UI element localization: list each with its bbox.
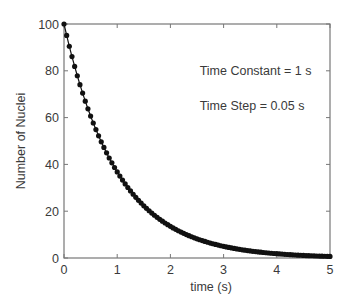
data-point [109,160,114,165]
decay-chart: 012345020406080100 Time Constant = 1 s T… [0,0,349,308]
data-point [72,64,77,69]
x-tick-label: 2 [167,263,174,277]
data-point [96,133,101,138]
y-tick-label: 60 [45,111,59,125]
data-point [104,150,109,155]
x-axis-label: time (s) [190,280,232,294]
y-tick-label: 20 [45,205,59,219]
x-tick-label: 4 [273,263,280,277]
data-point [327,254,332,259]
y-tick-label: 100 [38,18,59,32]
data-point [75,73,80,78]
data-point [85,106,90,111]
data-point [69,54,74,59]
axis-ticks [64,24,330,258]
data-point [61,21,66,26]
data-point [93,127,98,132]
data-point [64,33,69,38]
data-point [99,139,104,144]
x-tick-label: 3 [220,263,227,277]
data-series [61,21,332,259]
x-tick-label: 1 [114,263,121,277]
data-point [91,120,96,125]
y-tick-label: 0 [52,252,59,266]
data-point [88,113,93,118]
y-tick-label: 40 [45,158,59,172]
data-point [101,145,106,150]
data-point [112,165,117,170]
data-point [83,99,88,104]
annotation-time-step: Time Step = 0.05 s [200,99,305,113]
data-point [77,82,82,87]
data-point [107,155,112,160]
y-tick-label: 80 [45,64,59,78]
x-tick-label: 0 [61,263,68,277]
tick-labels: 012345020406080100 [38,18,333,278]
annotation-time-constant: Time Constant = 1 s [200,64,312,78]
data-point [80,91,85,96]
data-point [67,44,72,49]
x-tick-label: 5 [327,263,334,277]
plot-frame [64,24,330,258]
series-line [64,24,330,256]
y-axis-label: Number of Nuclei [14,93,28,190]
plot-axes [64,24,330,258]
chart-canvas: 012345020406080100 Time Constant = 1 s T… [0,0,349,308]
